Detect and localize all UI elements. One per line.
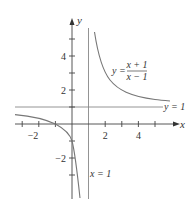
y-axis-arrow-icon xyxy=(70,18,75,25)
rational-function-graph: y x −2 2 4 4 2 −2 y = x + 1 x − 1 y = 1 … xyxy=(0,0,193,200)
x-tick-label-neg2: −2 xyxy=(28,130,39,141)
function-label-numerator: x + 1 xyxy=(125,59,147,70)
x-tick-label-2: 2 xyxy=(103,130,108,141)
x-tick-label-4: 4 xyxy=(136,130,141,141)
x-axis-label: x xyxy=(179,118,185,130)
y-tick-label-4: 4 xyxy=(61,51,66,62)
vertical-asymptote-label: x = 1 xyxy=(89,168,111,179)
y-axis-label: y xyxy=(76,14,82,26)
curve-left-branch xyxy=(15,115,80,198)
function-label: y = x + 1 x − 1 xyxy=(111,59,148,82)
horizontal-asymptote-label: y = 1 xyxy=(163,101,185,112)
x-axis-arrow-icon xyxy=(173,122,180,127)
function-label-lhs: y = xyxy=(111,65,126,76)
y-tick-label-neg2: −2 xyxy=(55,153,66,164)
function-label-denominator: x − 1 xyxy=(125,71,147,82)
y-tick-label-2: 2 xyxy=(61,85,66,96)
